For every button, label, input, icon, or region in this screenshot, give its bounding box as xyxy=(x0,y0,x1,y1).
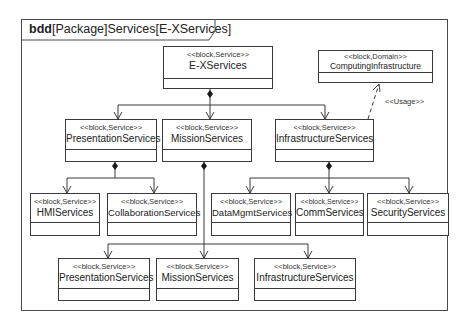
block-mission-services-2[interactable]: <<block,Service>> MissionServices xyxy=(156,258,239,301)
block-presentation-services[interactable]: <<block,Service>> PresentationServices xyxy=(65,119,157,162)
block-name: PresentationServices xyxy=(66,132,156,145)
block-name: MissionServices xyxy=(157,271,238,284)
block-stereotype: <<block,Service>> xyxy=(255,259,355,271)
diagram-title: [Package]Services[E-XServices] xyxy=(52,22,231,36)
block-infrastructure-services[interactable]: <<block,Service>> InfrastructureServices xyxy=(275,119,374,162)
block-hmi-services[interactable]: <<block,Service>> HMIServices xyxy=(30,193,100,236)
block-name: DataMgmtServices xyxy=(212,206,290,219)
block-stereotype: <<block,Service>> xyxy=(66,120,156,132)
block-name: PresentationServices xyxy=(59,271,149,284)
block-stereotype: <<block,Service>> xyxy=(164,47,272,59)
block-name: InfrastructureServices xyxy=(255,271,355,284)
block-name: ComputingInfrastructure xyxy=(319,61,432,71)
block-name: E-XServices xyxy=(164,59,272,72)
block-stereotype: <<block,Service>> xyxy=(276,120,373,132)
block-security-services[interactable]: <<block,Service>> SecurityServices xyxy=(367,193,449,236)
block-stereotype: <<block,Service>> xyxy=(212,194,290,206)
block-datamgmt-services[interactable]: <<block,Service>> DataMgmtServices xyxy=(211,193,291,236)
block-name: CommServices xyxy=(296,206,363,219)
block-name: CollaborationServices xyxy=(108,206,196,219)
bdd-diagram-canvas: bdd[Package]Services[E-XServices] xyxy=(0,0,469,331)
block-stereotype: <<block,Service>> xyxy=(59,259,149,271)
block-name: SecurityServices xyxy=(368,206,448,219)
block-name: MissionServices xyxy=(163,132,251,145)
usage-dependency-label: <<Usage>> xyxy=(385,97,424,106)
frame-header: bdd[Package]Services[E-XServices] xyxy=(21,19,251,40)
block-stereotype: <<block,Service>> xyxy=(31,194,99,206)
block-stereotype: <<block,Service>> xyxy=(163,120,251,132)
block-comm-services[interactable]: <<block,Service>> CommServices xyxy=(295,193,364,236)
block-stereotype: <<block,Service>> xyxy=(368,194,448,206)
block-infrastructure-services-2[interactable]: <<block,Service>> InfrastructureServices xyxy=(254,258,356,301)
block-stereotype: <<block,Domain>> xyxy=(319,51,432,61)
block-computing-infrastructure[interactable]: <<block,Domain>> ComputingInfrastructure xyxy=(318,50,433,83)
block-presentation-services-2[interactable]: <<block,Service>> PresentationServices xyxy=(58,258,150,301)
diagram-kind: bdd xyxy=(29,22,52,36)
block-name: HMIServices xyxy=(31,206,99,219)
block-e-xservices[interactable]: <<block,Service>> E-XServices xyxy=(163,46,273,89)
block-stereotype: <<block,Service>> xyxy=(296,194,363,206)
block-collaboration-services[interactable]: <<block,Service>> CollaborationServices xyxy=(107,193,197,236)
block-mission-services[interactable]: <<block,Service>> MissionServices xyxy=(162,119,252,162)
block-name: InfrastructureServices xyxy=(276,132,373,145)
block-stereotype: <<block,Service>> xyxy=(108,194,196,206)
block-stereotype: <<block,Service>> xyxy=(157,259,238,271)
